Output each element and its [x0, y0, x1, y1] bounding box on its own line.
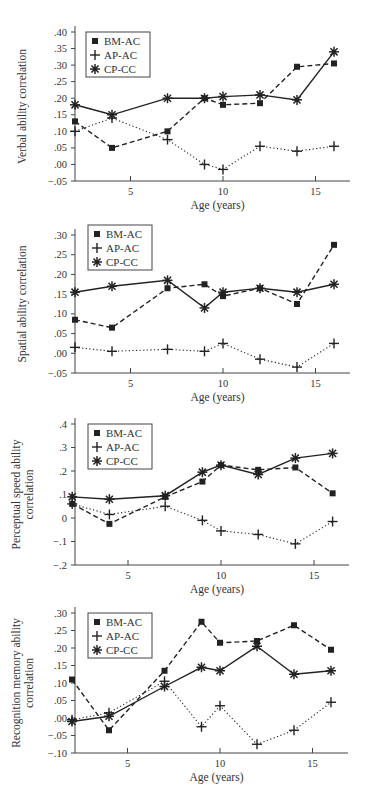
legend-square-icon: [94, 619, 100, 625]
plus-marker-icon: [200, 159, 210, 169]
legend: BM-ACAP-ACCP-CC: [88, 424, 152, 469]
asterisk-marker-icon: [329, 279, 339, 289]
asterisk-marker-icon: [67, 492, 77, 502]
x-tick-label: 15: [307, 758, 318, 769]
square-marker-icon: [331, 60, 337, 66]
plus-marker-icon: [329, 338, 339, 348]
x-tick-label: 15: [310, 378, 321, 389]
square-marker-icon: [106, 727, 112, 733]
y-axis-title: Spatial ability correlation: [16, 245, 29, 362]
square-marker-icon: [291, 622, 297, 628]
square-marker-icon: [199, 479, 205, 485]
plus-marker-icon: [216, 526, 226, 536]
square-marker-icon: [199, 619, 205, 625]
plus-marker-icon: [290, 539, 300, 549]
plus-marker-icon: [289, 725, 299, 735]
square-marker-icon: [72, 118, 78, 124]
y-tick-label: .00: [54, 348, 67, 359]
plus-marker-icon: [163, 135, 173, 145]
asterisk-marker-icon: [200, 93, 210, 103]
x-tick-label: 5: [128, 186, 133, 197]
y-tick-label: −.05: [48, 176, 67, 187]
plus-marker-icon: [200, 346, 210, 356]
chart-perceptual-speed-ability: −.2−.10.1.2.3.451015Age (years)Perceptua…: [10, 418, 349, 596]
y-tick-label: .4: [59, 419, 68, 430]
plus-marker-icon: [70, 342, 80, 352]
asterisk-marker-icon: [70, 100, 80, 110]
legend-label: CP-CC: [106, 455, 138, 467]
legend-label: AP-AC: [106, 630, 139, 642]
square-marker-icon: [165, 285, 171, 291]
legend-asterisk-icon: [92, 645, 102, 655]
y-tick-label: .1: [59, 489, 67, 500]
x-tick-label: 15: [309, 570, 320, 581]
y-tick-label: .15: [54, 660, 67, 671]
x-tick-label: 10: [218, 378, 229, 389]
square-marker-icon: [109, 325, 115, 331]
asterisk-marker-icon: [289, 669, 299, 679]
asterisk-marker-icon: [215, 666, 225, 676]
plus-marker-icon: [163, 344, 173, 354]
asterisk-marker-icon: [160, 682, 170, 692]
legend-square-icon: [94, 430, 100, 436]
legend-label: CP-CC: [106, 256, 138, 268]
x-tick-label: 10: [215, 758, 226, 769]
asterisk-marker-icon: [200, 303, 210, 313]
y-tick-label: .30: [54, 60, 67, 71]
y-tick-label: .35: [54, 43, 67, 54]
square-marker-icon: [330, 490, 336, 496]
plus-marker-icon: [215, 701, 225, 711]
y-tick-label: .10: [54, 308, 67, 319]
plus-marker-icon: [329, 141, 339, 151]
y-tick-label: −.1: [53, 536, 67, 547]
plus-marker-icon: [252, 739, 262, 749]
plus-marker-icon: [218, 338, 228, 348]
plus-marker-icon: [326, 697, 336, 707]
legend-label: AP-AC: [104, 49, 137, 61]
plus-marker-icon: [253, 529, 263, 539]
asterisk-marker-icon: [253, 470, 263, 480]
legend: BM-ACAP-ACCP-CC: [88, 613, 152, 658]
asterisk-marker-icon: [67, 717, 77, 727]
plus-marker-icon: [292, 362, 302, 372]
y-axis-title: Perceptual speed abilitycorrelation: [10, 439, 35, 549]
square-marker-icon: [72, 317, 78, 323]
legend-label: BM-AC: [106, 228, 142, 240]
y-tick-label: .20: [54, 269, 67, 280]
asterisk-marker-icon: [292, 287, 302, 297]
asterisk-marker-icon: [328, 448, 338, 458]
legend: BM-ACAP-ACCP-CC: [88, 225, 152, 270]
series-ap-ac: [67, 676, 336, 749]
square-marker-icon: [294, 301, 300, 307]
plus-marker-icon: [160, 501, 170, 511]
asterisk-marker-icon: [216, 460, 226, 470]
x-tick-label: 10: [216, 570, 227, 581]
legend-label: BM-AC: [104, 35, 140, 47]
asterisk-marker-icon: [104, 711, 114, 721]
square-marker-icon: [69, 677, 75, 683]
x-tick-label: 10: [218, 186, 229, 197]
y-tick-label: .00: [54, 713, 67, 724]
y-tick-label: .10: [54, 678, 67, 689]
plus-marker-icon: [197, 515, 207, 525]
y-tick-label: .30: [54, 230, 67, 241]
x-axis-title: Age (years): [191, 199, 245, 212]
figure-four-panel-line-charts: −.05.00.05.10.15.20.25.30.35.4051015Age …: [0, 0, 372, 798]
asterisk-marker-icon: [163, 93, 173, 103]
y-tick-label: .05: [54, 328, 67, 339]
series-ap-ac: [70, 113, 339, 174]
y-tick-label: −.2: [53, 560, 67, 571]
x-tick-label: 5: [125, 758, 130, 769]
y-tick-label: .2: [59, 466, 67, 477]
x-tick-label: 5: [128, 378, 133, 389]
plus-marker-icon: [255, 141, 265, 151]
y-tick-label: −.05: [48, 730, 67, 741]
y-tick-label: .30: [54, 608, 67, 619]
asterisk-marker-icon: [163, 275, 173, 285]
x-tick-label: 15: [310, 186, 321, 197]
asterisk-marker-icon: [326, 666, 336, 676]
y-tick-label: .15: [54, 109, 67, 120]
asterisk-marker-icon: [107, 110, 117, 120]
square-marker-icon: [257, 100, 263, 106]
asterisk-marker-icon: [218, 287, 228, 297]
